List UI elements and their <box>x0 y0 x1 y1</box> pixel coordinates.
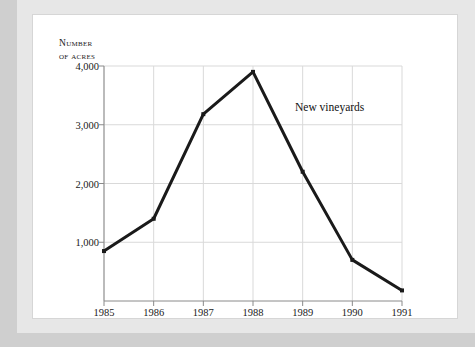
x-axis-tick-label: 1985 <box>94 307 115 318</box>
series-marker <box>301 170 305 174</box>
x-axis-tick-label: 1986 <box>143 307 164 318</box>
y-axis-title: Number of acres <box>59 37 95 63</box>
y-axis-title-line1: Number <box>59 37 95 50</box>
y-axis-tick-label: 4,000 <box>75 61 99 72</box>
x-axis-tick-labels: 1985198619871988198919901991 <box>104 307 402 323</box>
x-axis-tick-label: 1989 <box>292 307 313 318</box>
x-axis-tick-label: 1988 <box>243 307 264 318</box>
line-chart-figure: Number of acres 1,0002,0003,0004,000 198… <box>33 15 459 320</box>
series-marker <box>400 288 404 292</box>
series-marker <box>350 258 354 262</box>
series-marker <box>152 217 156 221</box>
series-marker <box>251 70 255 74</box>
screenshot-root: Number of acres 1,0002,0003,0004,000 198… <box>0 0 475 347</box>
x-axis-tick-label: 1991 <box>392 307 413 318</box>
series-annotation-label: New vineyards <box>295 101 364 113</box>
x-axis-tick-label: 1987 <box>193 307 214 318</box>
series-marker <box>201 112 205 116</box>
y-axis-tick-label: 2,000 <box>75 178 99 189</box>
y-axis-tick-labels: 1,0002,0003,0004,000 <box>53 66 99 301</box>
x-axis-tick-label: 1990 <box>342 307 363 318</box>
y-axis-tick-label: 1,000 <box>75 237 99 248</box>
series-marker <box>102 249 106 253</box>
page-sheet: Number of acres 1,0002,0003,0004,000 198… <box>32 14 458 319</box>
y-axis-tick-label: 3,000 <box>75 119 99 130</box>
